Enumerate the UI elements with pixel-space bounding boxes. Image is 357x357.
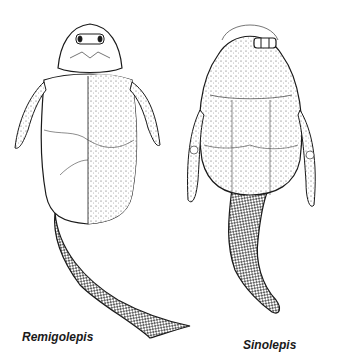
sinolepis-drawing — [188, 25, 316, 313]
sinolepis-tail — [229, 188, 280, 313]
sinolepis-shield — [199, 36, 301, 195]
remigolepis-drawing — [15, 24, 190, 338]
remigolepis-label: Remigolepis — [22, 330, 93, 344]
sinolepis-label: Sinolepis — [243, 338, 296, 352]
remigolepis-head — [58, 24, 122, 73]
illustration — [0, 0, 357, 357]
remigolepis-shield-shading — [88, 74, 137, 224]
sinolepis-orbit — [254, 38, 276, 48]
remigolepis-tail — [55, 212, 190, 338]
